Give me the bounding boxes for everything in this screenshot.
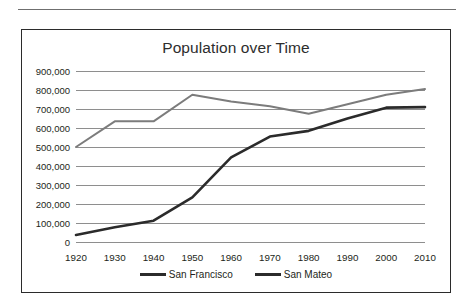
chart-title: Population over Time — [22, 39, 450, 57]
y-axis-tick-label: 900,000 — [36, 66, 70, 77]
y-axis-tick-label: 200,000 — [36, 199, 70, 210]
x-axis-tick-label: 1980 — [298, 252, 320, 263]
x-axis-tick-label: 1970 — [259, 252, 281, 263]
x-axis-tick-label: 1920 — [65, 252, 87, 263]
x-axis-tick-label: 1990 — [337, 252, 359, 263]
legend-label: San Mateo — [284, 269, 332, 280]
x-axis-tick-label: 2000 — [375, 252, 397, 263]
legend-swatch-icon — [255, 273, 281, 276]
series-line-san-francisco — [76, 89, 425, 147]
legend-item[interactable]: San Mateo — [255, 269, 332, 280]
gridline — [76, 242, 425, 243]
y-axis-tick-label: 300,000 — [36, 180, 70, 191]
series-group — [76, 71, 425, 242]
y-axis-tick-label: 100,000 — [36, 218, 70, 229]
x-axis-tick-label: 2010 — [414, 252, 436, 263]
y-axis-tick-label: 800,000 — [36, 85, 70, 96]
y-axis-tick-label: 500,000 — [36, 142, 70, 153]
legend-label: San Francisco — [169, 269, 233, 280]
legend-item[interactable]: San Francisco — [140, 269, 233, 280]
y-axis-tick-label: 600,000 — [36, 123, 70, 134]
chart-container: Population over Time 900,000800,000700,0… — [21, 29, 451, 293]
x-axis-tick-label: 1940 — [143, 252, 165, 263]
x-axis-tick-label: 1930 — [104, 252, 126, 263]
page-top-divider — [18, 9, 456, 10]
y-axis-tick-label: 0 — [65, 237, 70, 248]
y-axis-tick-label: 700,000 — [36, 104, 70, 115]
chart-legend: San FranciscoSan Mateo — [22, 269, 450, 280]
x-axis-tick-label: 1950 — [181, 252, 203, 263]
series-line-san-mateo — [76, 107, 425, 235]
y-axis-tick-label: 400,000 — [36, 161, 70, 172]
x-axis-tick-label: 1960 — [220, 252, 242, 263]
plot-area: 900,000800,000700,000600,000500,000400,0… — [76, 71, 425, 242]
legend-swatch-icon — [140, 273, 166, 276]
